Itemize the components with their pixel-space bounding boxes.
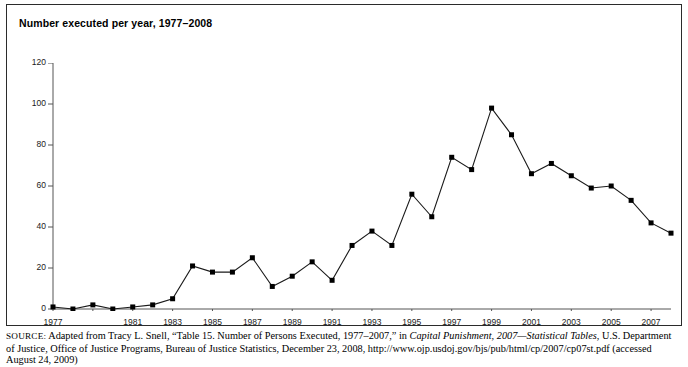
line-chart-svg <box>45 63 675 311</box>
data-point-marker <box>609 184 614 189</box>
data-point-marker <box>290 274 295 279</box>
chart-plot-area: 0204060801001201977198119831985198719891… <box>45 63 675 311</box>
x-axis-tick-label: 1989 <box>272 317 312 327</box>
data-point-marker <box>549 161 554 166</box>
data-point-marker <box>449 155 454 160</box>
x-axis-tick-label: 2001 <box>511 317 551 327</box>
x-axis-tick-label: 2007 <box>631 317 671 327</box>
x-axis-tick-label: 1985 <box>192 317 232 327</box>
y-axis-tick-label: 60 <box>20 180 46 190</box>
y-axis-tick-label: 100 <box>20 98 46 108</box>
x-axis-tick-label: 1983 <box>153 317 193 327</box>
data-point-marker <box>629 198 634 203</box>
page-title: Number executed per year, 1977–2008 <box>19 17 212 29</box>
x-axis-tick-label: 2003 <box>551 317 591 327</box>
data-point-marker <box>210 270 215 275</box>
y-axis-tick-label: 120 <box>20 57 46 67</box>
data-point-marker <box>330 278 335 283</box>
data-point-marker <box>51 304 56 309</box>
x-axis-tick-label: 1981 <box>113 317 153 327</box>
data-point-marker <box>469 167 474 172</box>
data-point-marker <box>409 192 414 197</box>
y-axis-tick-label: 40 <box>20 221 46 231</box>
data-point-marker <box>250 255 255 260</box>
x-axis-tick-label: 1997 <box>432 317 472 327</box>
x-axis-tick-label: 1999 <box>472 317 512 327</box>
x-axis-tick-label: 1977 <box>33 317 73 327</box>
x-axis-tick-label: 1995 <box>392 317 432 327</box>
y-axis-tick-label: 0 <box>20 303 46 313</box>
data-point-marker <box>130 304 135 309</box>
data-point-marker <box>529 171 534 176</box>
data-point-marker <box>190 263 195 268</box>
data-point-marker <box>70 307 75 312</box>
data-point-marker <box>369 229 374 234</box>
data-point-marker <box>170 296 175 301</box>
figure-frame: Number executed per year, 1977–2008 0204… <box>6 4 682 326</box>
data-point-marker <box>429 214 434 219</box>
data-point-marker <box>509 132 514 137</box>
data-series-line <box>53 108 671 309</box>
data-point-marker <box>589 186 594 191</box>
x-axis-tick-label: 1993 <box>352 317 392 327</box>
data-point-marker <box>230 270 235 275</box>
y-axis-tick-label: 20 <box>20 262 46 272</box>
data-point-marker <box>150 302 155 307</box>
data-point-marker <box>310 259 315 264</box>
source-text-a: Adapted from Tracy L. Snell, “Table 15. … <box>46 330 409 341</box>
data-point-marker <box>110 307 115 312</box>
source-title-italic: Capital Punishment, 2007—Statistical Tab… <box>410 330 597 341</box>
y-axis-tick-label: 80 <box>20 139 46 149</box>
x-axis-tick-label: 1991 <box>312 317 352 327</box>
data-point-marker <box>489 106 494 111</box>
data-point-marker <box>569 173 574 178</box>
data-point-marker <box>90 302 95 307</box>
x-axis-tick-label: 1987 <box>232 317 272 327</box>
data-point-marker <box>270 284 275 289</box>
data-point-marker <box>649 220 654 225</box>
x-axis-tick-label: 2005 <box>591 317 631 327</box>
data-point-marker <box>389 243 394 248</box>
source-label: SOURCE: <box>6 331 46 341</box>
data-point-marker <box>669 231 674 236</box>
data-point-marker <box>350 243 355 248</box>
source-note: SOURCE: Adapted from Tracy L. Snell, “Ta… <box>6 330 682 366</box>
